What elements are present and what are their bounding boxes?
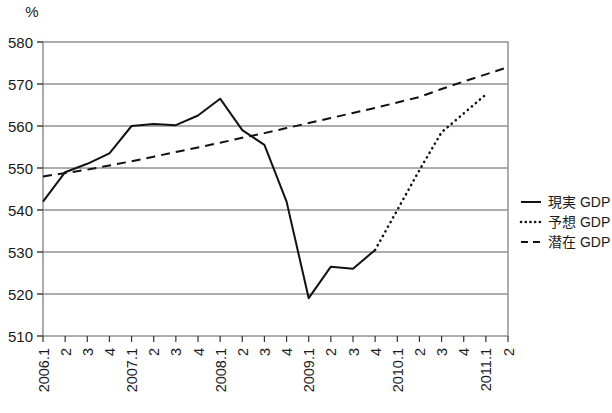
x-axis-tick-label: 2 (323, 348, 339, 356)
x-axis-tick-label: 3 (346, 348, 362, 356)
y-axis-unit-label: % (25, 3, 38, 20)
y-axis-tick-label: 580 (8, 34, 33, 51)
x-axis-tick-label: 2009.1 (301, 348, 317, 392)
x-axis-tick-label: 2011.1 (478, 348, 494, 391)
x-axis-tick-label: 4 (102, 348, 118, 356)
y-axis-tick-label: 570 (8, 76, 33, 93)
x-axis-tick-label: 2 (235, 348, 251, 356)
y-axis-tick-label: 510 (8, 328, 33, 345)
x-axis-tick-label: 3 (80, 348, 96, 356)
x-axis-tick-label: 3 (257, 348, 273, 356)
x-axis-tick-label: 4 (191, 348, 207, 356)
y-axis-tick-label: 520 (8, 286, 33, 303)
x-axis-tick-label: 2007.1 (124, 348, 140, 392)
x-axis-tick-label: 4 (456, 348, 472, 356)
x-axis-tick-label: 4 (368, 348, 384, 356)
x-axis-tick-label: 2 (58, 348, 74, 356)
chart-container: 510520530540550560570580 2006.12342007.1… (0, 0, 612, 413)
x-axis-tick-label: 2006.1 (36, 348, 52, 392)
x-axis-tick-label: 2008.1 (213, 348, 229, 392)
x-axis-tick-label: 2 (412, 348, 428, 356)
x-axis-tick-label: 2 (501, 348, 517, 356)
y-axis-tick-label: 540 (8, 202, 33, 219)
x-axis-tick-label: 4 (279, 348, 295, 356)
x-axis-tick-label: 2 (146, 348, 162, 356)
y-axis-tick-label: 560 (8, 118, 33, 135)
y-axis-tick-label: 550 (8, 160, 33, 177)
x-axis-tick-label: 2010.1 (390, 348, 406, 392)
legend-label: 現実 GDP (548, 194, 610, 210)
chart-legend: 現実 GDP予想 GDP潜在 GDP (521, 194, 610, 250)
legend-label: 潜在 GDP (548, 234, 610, 250)
x-axis-tick-label: 3 (168, 348, 184, 356)
gdp-line-chart: 510520530540550560570580 2006.12342007.1… (0, 0, 612, 413)
x-axis-tick-label: 3 (434, 348, 450, 356)
y-axis-tick-label: 530 (8, 244, 33, 261)
legend-label: 予想 GDP (548, 214, 610, 230)
